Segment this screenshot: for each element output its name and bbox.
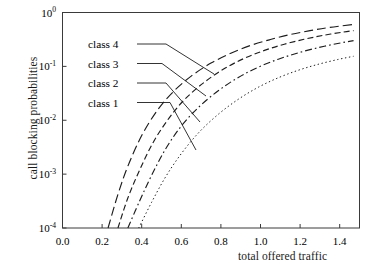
curve-class-1 — [139, 56, 354, 228]
x-tick-label: 0.0 — [56, 235, 70, 247]
x-axis-label: total offered traffic — [238, 250, 327, 262]
legend-leader-class-3 — [137, 64, 206, 97]
legend-label-class-2: class 2 — [88, 77, 119, 89]
x-tick-label: 0.4 — [135, 235, 149, 247]
curve-class-2 — [128, 41, 354, 228]
legend-label-class-1: class 1 — [88, 97, 118, 109]
y-tick-label: 10-1 — [39, 59, 57, 72]
x-tick-label: 1.0 — [254, 235, 268, 247]
legend-labels: class 4class 3class 2class 1 — [88, 38, 119, 109]
figure: call blocking probabilities total offere… — [0, 0, 372, 271]
legend-leader-class-1 — [137, 103, 196, 151]
data-curves — [108, 24, 354, 228]
x-tick-label: 1.4 — [333, 235, 347, 247]
legend-leader-class-4 — [137, 44, 214, 74]
x-axis-tick-labels: 0.00.20.40.60.81.01.21.4 — [56, 235, 347, 247]
y-tick-label: 100 — [41, 5, 56, 18]
y-axis-label: call blocking probabilities — [27, 23, 39, 213]
curve-class-4 — [108, 24, 354, 228]
x-tick-label: 1.2 — [293, 235, 307, 247]
x-tick-label: 0.2 — [95, 235, 109, 247]
x-tick-label: 0.8 — [214, 235, 228, 247]
legend-label-class-3: class 3 — [88, 58, 119, 70]
plot-canvas: 10010-110-210-310-4 0.00.20.40.60.81.01.… — [0, 0, 372, 271]
y-tick-label: 10-3 — [39, 167, 57, 180]
y-tick-label: 10-4 — [39, 221, 57, 234]
x-tick-label: 0.6 — [174, 235, 188, 247]
y-tick-label: 10-2 — [39, 113, 57, 126]
legend-label-class-4: class 4 — [88, 38, 119, 50]
y-axis-tick-labels: 10010-110-210-310-4 — [39, 5, 57, 234]
